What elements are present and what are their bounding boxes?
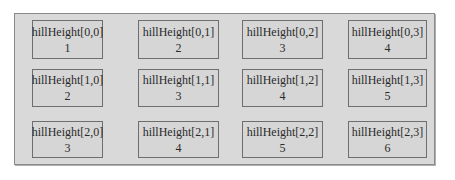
cell-value: 1 [65, 40, 71, 56]
cell-value: 3 [176, 88, 182, 104]
cell-value: 4 [176, 140, 182, 156]
cell-index-label: hillHeight[0,3] [352, 24, 424, 40]
cell-index-label: hillHeight[1,0] [32, 72, 104, 88]
cell-index-label: hillHeight[1,1] [143, 72, 215, 88]
cell-index-label: hillHeight[0,0] [32, 24, 104, 40]
array-cell: hillHeight[0,3]4 [348, 20, 427, 59]
array-cell: hillHeight[0,1]2 [138, 20, 219, 59]
cell-value: 2 [176, 40, 182, 56]
cell-index-label: hillHeight[2,2] [247, 124, 319, 140]
cell-value: 3 [65, 140, 71, 156]
cell-value: 2 [65, 88, 71, 104]
array-cell: hillHeight[0,0]1 [32, 20, 103, 59]
array-cell: hillHeight[1,0]2 [32, 69, 103, 107]
cell-index-label: hillHeight[1,3] [352, 72, 424, 88]
cell-index-label: hillHeight[0,2] [247, 24, 319, 40]
cell-value: 3 [280, 40, 286, 56]
cell-value: 5 [385, 88, 391, 104]
array-cell: hillHeight[2,2]5 [242, 121, 323, 158]
cell-index-label: hillHeight[1,2] [247, 72, 319, 88]
array-cell: hillHeight[2,3]6 [348, 121, 427, 158]
array-cell: hillHeight[2,1]4 [138, 121, 219, 158]
array-cell: hillHeight[1,1]3 [138, 69, 219, 107]
array-cell: hillHeight[2,0]3 [32, 121, 103, 158]
cell-index-label: hillHeight[2,3] [352, 124, 424, 140]
cell-index-label: hillHeight[2,0] [32, 124, 104, 140]
cell-index-label: hillHeight[2,1] [143, 124, 215, 140]
array-cell: hillHeight[1,3]5 [348, 69, 427, 107]
cell-value: 4 [280, 88, 286, 104]
array-cell: hillHeight[0,2]3 [242, 20, 323, 59]
array-cell: hillHeight[1,2]4 [242, 69, 323, 107]
cell-index-label: hillHeight[0,1] [143, 24, 215, 40]
cell-value: 5 [280, 140, 286, 156]
cell-value: 4 [385, 40, 391, 56]
cell-value: 6 [385, 140, 391, 156]
